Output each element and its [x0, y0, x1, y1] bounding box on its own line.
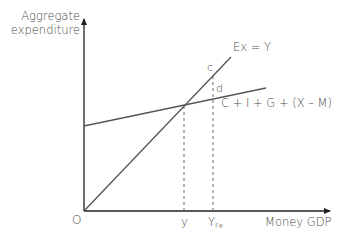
point-c-label: c	[207, 61, 213, 74]
x-axis-label: Money GDP	[265, 216, 331, 229]
y-axis-label-line2: expenditure	[11, 24, 80, 37]
origin-label: O	[72, 214, 81, 227]
forty-five-degree-line	[84, 57, 231, 211]
ae-line-label: C + I + G + (X – M)	[221, 97, 332, 110]
x-tick-full-employment-main: Y	[208, 215, 215, 229]
aggregate-expenditure-diagram: Aggregate expenditure O Ex = Y C + I + G…	[0, 0, 342, 242]
x-tick-full-employment-label: YFe	[208, 216, 223, 233]
y-axis-label-line1: Aggregate	[21, 10, 80, 23]
x-tick-full-employment-sub: Fe	[215, 222, 223, 230]
forty-five-line-label: Ex = Y	[233, 41, 271, 54]
point-d-label: d	[216, 82, 223, 95]
x-tick-equilibrium-label: y	[181, 216, 188, 229]
